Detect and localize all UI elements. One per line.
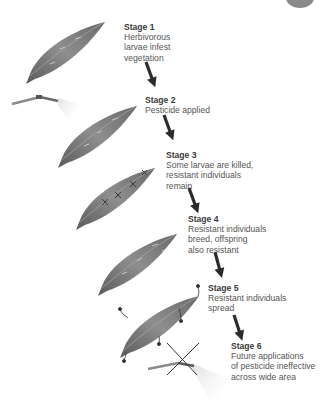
down-arrow-icon bbox=[141, 60, 160, 89]
corner-tab-icon bbox=[286, 0, 314, 8]
leaf-icon bbox=[76, 168, 155, 230]
leaf-icon bbox=[98, 234, 177, 296]
down-arrow-icon bbox=[229, 313, 247, 342]
stage-description: Herbivorous larvae infest vegetation bbox=[124, 32, 170, 63]
stage-2-label: Stage 2 Pesticide applied bbox=[145, 95, 210, 115]
down-arrow-icon bbox=[159, 113, 178, 142]
leaf-icon bbox=[118, 284, 199, 362]
stage-1-label: Stage 1 Herbivorous larvae infest vegeta… bbox=[124, 22, 170, 63]
stage-description: Resistant individuals breed, offspring a… bbox=[188, 224, 266, 255]
stage-3-label: Stage 3 Some larvae are killed, resistan… bbox=[166, 150, 253, 191]
pesticide-sprayer-icon bbox=[148, 363, 230, 405]
stage-4-label: Stage 4 Resistant individuals breed, off… bbox=[188, 214, 266, 255]
stage-title: Stage 3 bbox=[166, 150, 253, 160]
stage-6-label: Stage 6 Future applications of pesticide… bbox=[231, 341, 315, 382]
stage-title: Stage 5 bbox=[208, 283, 286, 293]
stage-description: Resistant individuals spread bbox=[208, 293, 286, 313]
stage-title: Stage 6 bbox=[231, 341, 315, 351]
stage-title: Stage 4 bbox=[188, 214, 266, 224]
stage-title: Stage 2 bbox=[145, 95, 210, 105]
stage-description: Pesticide applied bbox=[145, 105, 210, 115]
stage-description: Future applications of pesticide ineffec… bbox=[231, 351, 315, 382]
down-arrow-icon bbox=[210, 251, 227, 280]
leaf-icon bbox=[26, 22, 105, 84]
pesticide-sprayer-icon bbox=[12, 95, 78, 122]
stage-title: Stage 1 bbox=[124, 22, 170, 32]
stage-5-label: Stage 5 Resistant individuals spread bbox=[208, 283, 286, 314]
stage-description: Some larvae are killed, resistant indivi… bbox=[166, 160, 253, 191]
